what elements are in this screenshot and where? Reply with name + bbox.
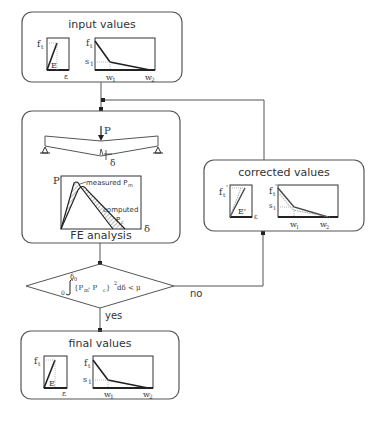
svg-text:dδ < μ: dδ < μ — [117, 284, 141, 292]
svg-text:P: P — [53, 175, 60, 186]
corrected-softening-graph: f t ' s 1 w 1 ' w 2 ' — [269, 183, 338, 230]
svg-text:s: s — [83, 375, 87, 384]
input-stress-strain-graph: f t E ε — [37, 38, 69, 81]
yes-label: yes — [105, 310, 122, 321]
corrected-values-node: corrected values f t ' E' ε f t ' s 1 w — [204, 160, 364, 231]
edge-corrected-to-fe — [101, 98, 264, 160]
svg-text:ε: ε — [254, 213, 258, 221]
edge-no-to-corrected: no — [174, 231, 265, 299]
svg-text:t: t — [90, 42, 93, 49]
svg-text:ε: ε — [64, 72, 68, 81]
input-values-title: input values — [68, 18, 136, 31]
svg-text:t: t — [41, 43, 44, 50]
svg-text:1: 1 — [110, 393, 114, 400]
corrected-stress-strain-graph: f t ' E' ε — [219, 184, 258, 221]
svg-text:1: 1 — [90, 60, 94, 67]
svg-text:t: t — [223, 191, 226, 198]
input-values-node: input values f t E ε f t s 1 w 1 w — [22, 12, 182, 83]
convergence-check-decision: δ 0 0 {P m - P c } 2 dδ < μ — [26, 264, 174, 308]
svg-text:}: } — [106, 284, 110, 292]
no-label: no — [190, 288, 202, 299]
svg-text:m: m — [128, 182, 133, 188]
svg-text:t: t — [273, 190, 276, 197]
svg-text:P: P — [116, 216, 120, 224]
svg-text:1: 1 — [296, 224, 299, 230]
load-deflection-graph: P measured P m computed P c δ — [53, 175, 150, 234]
svg-text:1: 1 — [112, 76, 116, 83]
svg-text:0: 0 — [61, 289, 65, 296]
svg-text:c: c — [121, 219, 124, 225]
svg-text:computed: computed — [103, 206, 138, 214]
svg-text:t: t — [88, 362, 91, 369]
svg-text:0: 0 — [74, 276, 77, 282]
edge-yes-to-final: yes — [98, 308, 122, 332]
input-softening-graph: f t s 1 w 1 w 2 — [85, 38, 155, 83]
flowchart-canvas: input values f t E ε f t s 1 w 1 w — [0, 0, 382, 422]
svg-text:': ' — [226, 184, 228, 192]
svg-text:measured P: measured P — [86, 179, 127, 187]
svg-text:- P: - P — [88, 284, 98, 292]
edge-fe-to-decision — [98, 243, 102, 265]
corrected-values-title: corrected values — [238, 166, 330, 179]
svg-text:E': E' — [238, 207, 246, 216]
svg-text:s: s — [85, 57, 89, 66]
final-values-title: final values — [69, 337, 132, 350]
svg-text:2: 2 — [326, 224, 329, 230]
fe-analysis-node: P δ P measured P m computed P c δ FE ana… — [22, 111, 180, 243]
svg-text:δ: δ — [110, 158, 115, 168]
svg-text:{P: {P — [74, 284, 83, 292]
svg-text:E: E — [49, 379, 55, 388]
beam-sketch: P δ — [40, 125, 163, 168]
svg-text:2: 2 — [149, 393, 153, 400]
svg-text:1: 1 — [273, 205, 276, 211]
svg-text:1: 1 — [88, 378, 92, 385]
svg-text:E: E — [51, 61, 57, 70]
svg-text:P: P — [104, 125, 111, 136]
svg-text:δ: δ — [144, 223, 150, 234]
fe-analysis-title: FE analysis — [70, 229, 132, 242]
integral-sign-icon — [66, 280, 73, 295]
edge-input-to-fe — [99, 82, 103, 111]
final-values-node: final values f t E ε f t s 1 w 1 w 2 — [21, 331, 179, 400]
svg-text:2: 2 — [151, 76, 155, 83]
final-softening-graph: f t s 1 w 1 w 2 — [83, 356, 153, 400]
svg-text:t: t — [38, 360, 41, 367]
final-stress-strain-graph: f t E ε — [34, 356, 67, 398]
svg-text:ε: ε — [62, 389, 66, 398]
svg-text:': ' — [275, 183, 277, 191]
